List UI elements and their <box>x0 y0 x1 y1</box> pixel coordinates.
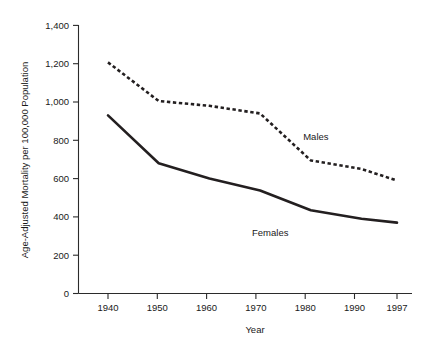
y-tick-label: 800 <box>53 135 69 146</box>
y-tick-label: 200 <box>53 250 69 261</box>
y-tick-label: 400 <box>53 211 69 222</box>
series-line-males <box>108 62 397 180</box>
x-tick-label: 1997 <box>386 302 407 313</box>
x-tick-1970: 1970 <box>245 294 266 314</box>
x-tick-1997: 1997 <box>386 294 407 314</box>
y-tick-600: 600 <box>53 173 78 184</box>
y-tick-1200: 1,200 <box>45 58 78 69</box>
x-tick-label: 1970 <box>245 302 266 313</box>
series-label-males: Males <box>303 131 329 142</box>
y-tick-label: 1,400 <box>45 20 69 31</box>
x-tick-1960: 1960 <box>196 294 217 314</box>
x-axis-title: Year <box>245 324 264 335</box>
x-tick-1950: 1950 <box>147 294 168 314</box>
y-axis-ticks: 0 200 400 600 800 1,000 <box>45 20 78 299</box>
x-tick-label: 1990 <box>344 302 365 313</box>
y-tick-label: 1,000 <box>45 96 69 107</box>
y-tick-label: 1,200 <box>45 58 69 69</box>
x-tick-1940: 1940 <box>97 294 118 314</box>
y-tick-0: 0 <box>64 288 79 299</box>
x-tick-label: 1950 <box>147 302 168 313</box>
x-tick-1990: 1990 <box>344 294 365 314</box>
y-tick-1000: 1,000 <box>45 96 78 107</box>
line-chart: 0 200 400 600 800 1,000 <box>0 0 431 350</box>
y-axis-title: Age-Adjusted Mortality per 100,000 Popul… <box>19 62 30 258</box>
chart-container: 0 200 400 600 800 1,000 <box>0 0 431 350</box>
y-tick-1400: 1,400 <box>45 20 78 31</box>
series-line-females <box>108 115 397 222</box>
x-tick-label: 1960 <box>196 302 217 313</box>
y-tick-400: 400 <box>53 211 78 222</box>
x-tick-label: 1940 <box>97 302 118 313</box>
x-axis-ticks: 1940 1950 1960 1970 1980 1990 <box>97 294 407 314</box>
x-tick-1980: 1980 <box>295 294 316 314</box>
y-tick-200: 200 <box>53 250 78 261</box>
x-tick-label: 1980 <box>295 302 316 313</box>
y-tick-label: 600 <box>53 173 69 184</box>
y-tick-800: 800 <box>53 135 78 146</box>
y-tick-label: 0 <box>64 288 69 299</box>
series-label-females: Females <box>252 227 289 238</box>
